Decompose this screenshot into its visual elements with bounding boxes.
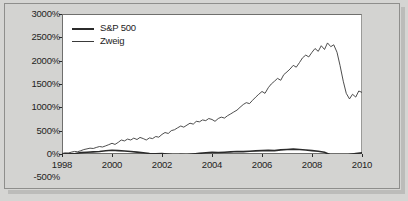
x-tick-label: 2004 bbox=[202, 159, 222, 170]
x-tick-label: 2008 bbox=[302, 159, 322, 170]
x-tick-mark bbox=[362, 154, 363, 157]
y-tick-mark bbox=[59, 84, 62, 85]
legend-swatch-zweig bbox=[72, 41, 94, 42]
y-tick-mark bbox=[59, 107, 62, 108]
x-tick-mark bbox=[62, 154, 63, 157]
x-tick-mark bbox=[112, 154, 113, 157]
legend-label-s-p-500: S&P 500 bbox=[100, 22, 136, 33]
chart-screenshot: 3000%2500%2000%1500%1000%500%0%-500% 199… bbox=[0, 0, 408, 201]
x-tick-label: 2010 bbox=[352, 159, 372, 170]
x-tick-label: 2006 bbox=[252, 159, 272, 170]
y-tick-mark bbox=[59, 14, 62, 15]
x-axis: 1998200020022004200620082010 bbox=[0, 0, 408, 201]
x-tick-mark bbox=[212, 154, 213, 157]
x-tick-label: 2002 bbox=[152, 159, 172, 170]
x-tick-label: 1998 bbox=[52, 159, 72, 170]
y-tick-mark bbox=[59, 37, 62, 38]
x-tick-mark bbox=[162, 154, 163, 157]
legend-label-zweig: Zweig bbox=[100, 35, 124, 46]
x-tick-mark bbox=[312, 154, 313, 157]
y-tick-mark bbox=[59, 61, 62, 62]
x-tick-mark bbox=[262, 154, 263, 157]
y-tick-mark bbox=[59, 131, 62, 132]
x-tick-label: 2000 bbox=[102, 159, 122, 170]
legend-swatch-s-p-500 bbox=[72, 28, 94, 30]
